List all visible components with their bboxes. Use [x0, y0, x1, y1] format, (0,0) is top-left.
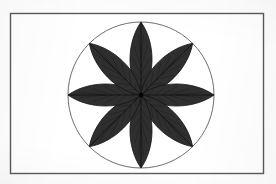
rosette-center — [139, 93, 143, 97]
rosette-figure — [0, 0, 276, 184]
figure-container — [0, 0, 276, 184]
